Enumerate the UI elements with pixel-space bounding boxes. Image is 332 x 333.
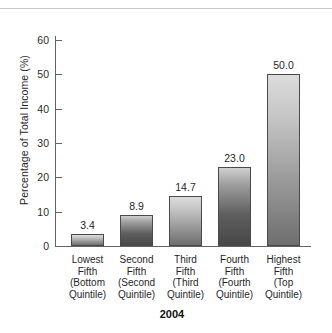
chart-caption-text: 2004 [160, 308, 184, 320]
y-tick-mark [55, 246, 62, 247]
category-label-line: (Top [256, 277, 312, 289]
x-axis-category-label: HighestFifth(TopQuintile) [256, 254, 312, 300]
category-label-line: Third [158, 254, 214, 266]
x-axis-category-label: LowestFifth(BottomQuintile) [60, 254, 116, 300]
top-divider [0, 8, 332, 9]
y-tick-mark [55, 109, 62, 110]
category-label-line: Highest [256, 254, 312, 266]
bar-value-label: 3.4 [66, 220, 110, 231]
bar-value-label: 8.9 [115, 201, 159, 212]
y-axis-title-text: Percentage of Total Income (%) [18, 25, 30, 235]
category-label-line: Quintile) [109, 289, 165, 301]
category-label-line: Fifth [158, 266, 214, 278]
bar[interactable] [218, 167, 251, 246]
y-tick-label: 50 [9, 69, 49, 79]
y-tick-mark [55, 177, 62, 178]
bar[interactable] [71, 234, 104, 246]
y-tick-label: 0 [9, 241, 49, 251]
category-label-line: Quintile) [158, 289, 214, 301]
category-label-line: (Second [109, 277, 165, 289]
y-tick-mark [55, 40, 62, 41]
category-label-line: Quintile) [60, 289, 116, 301]
bar[interactable] [169, 196, 202, 246]
category-label-line: Fifth [207, 266, 263, 278]
bar[interactable] [120, 215, 153, 246]
category-label-line: (Bottom [60, 277, 116, 289]
bar-chart-figure: Percentage of Total Income (%) 010203040… [0, 0, 332, 333]
x-axis-category-label: FourthFifth(FourthQuintile) [207, 254, 263, 300]
chart-caption: 2004 [0, 308, 332, 320]
y-tick-label: 10 [9, 207, 49, 217]
x-axis-line [55, 246, 311, 247]
category-label-line: Quintile) [256, 289, 312, 301]
category-label-line: Fifth [256, 266, 312, 278]
y-tick-mark [55, 143, 62, 144]
bar-value-label: 23.0 [213, 153, 257, 164]
bar-value-label: 50.0 [262, 60, 306, 71]
y-tick-mark [55, 212, 62, 213]
y-axis-title: Percentage of Total Income (%) [18, 25, 34, 235]
y-tick-label: 20 [9, 172, 49, 182]
category-label-line: (Fourth [207, 277, 263, 289]
category-label-line: Quintile) [207, 289, 263, 301]
y-tick-label: 40 [9, 104, 49, 114]
category-label-line: Fifth [109, 266, 165, 278]
y-axis-line [55, 36, 56, 246]
category-label-line: Fourth [207, 254, 263, 266]
category-label-line: Lowest [60, 254, 116, 266]
y-tick-label: 30 [9, 138, 49, 148]
bar-value-label: 14.7 [164, 182, 208, 193]
x-axis-category-label: SecondFifth(SecondQuintile) [109, 254, 165, 300]
bar[interactable] [267, 74, 300, 246]
x-axis-category-label: ThirdFifth(ThirdQuintile) [158, 254, 214, 300]
category-label-line: Fifth [60, 266, 116, 278]
y-tick-mark [55, 74, 62, 75]
y-tick-label: 60 [9, 35, 49, 45]
category-label-line: (Third [158, 277, 214, 289]
category-label-line: Second [109, 254, 165, 266]
